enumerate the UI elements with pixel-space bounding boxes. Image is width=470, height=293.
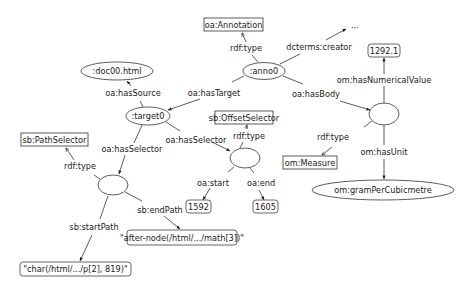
- svg-text:om:Measure: om:Measure: [285, 158, 336, 168]
- edge-path-end-path: sb:endPath: [125, 192, 183, 229]
- node-end-path-value: "after-node(/html/.../math[3])": [120, 230, 244, 245]
- node-path-selector: [98, 175, 128, 195]
- edge-body-has-numerical-value: om:hasNumericalValue: [337, 58, 431, 103]
- edge-label: sb:startPath: [69, 222, 118, 232]
- edge-label: om:hasUnit: [361, 147, 409, 157]
- svg-text:sb:PathSelector: sb:PathSelector: [23, 135, 87, 145]
- node-end-value: 1605: [253, 200, 278, 213]
- edge-label: oa:hasBody: [292, 89, 340, 99]
- edge-anno0-creator: dcterms:creator: [280, 29, 352, 64]
- node-sb-offset-selector: sb:OffsetSelector: [209, 111, 280, 124]
- node-oa-annotation: oa:Annotation: [204, 18, 263, 31]
- svg-text:"char(/html/.../p[2], 819)": "char(/html/.../p[2], 819)": [23, 264, 127, 274]
- svg-text:sb:OffsetSelector: sb:OffsetSelector: [209, 113, 280, 123]
- svg-text::target0: :target0: [132, 111, 165, 121]
- node-doc00-html: :doc00.html: [81, 62, 153, 80]
- svg-text::anno0: :anno0: [250, 66, 278, 76]
- node-target0: :target0: [126, 107, 170, 125]
- edge-label: rdf:type: [233, 131, 265, 141]
- svg-text:"after-node(/html/.../math[3]): "after-node(/html/.../math[3])": [120, 233, 244, 243]
- edge-anno0-has-target: oa:hasTarget: [168, 76, 244, 110]
- svg-text:1592: 1592: [188, 202, 209, 212]
- edge-body-has-unit: om:hasUnit: [361, 125, 409, 179]
- edge-target-has-selector-path: oa:hasSelector: [102, 125, 164, 174]
- svg-text:om:gramPerCubicmetre: om:gramPerCubicmetre: [334, 185, 432, 195]
- edge-label: rdf:type: [64, 161, 96, 171]
- node-body: [369, 103, 399, 125]
- node-offset-selector: [230, 148, 260, 168]
- svg-text:1292.1: 1292.1: [370, 46, 399, 56]
- svg-text::doc00.html: :doc00.html: [92, 66, 141, 76]
- edge-target-has-source: oa:hasSource: [105, 81, 160, 107]
- edge-label: dcterms:creator: [286, 42, 352, 52]
- node-creator-ellipsis: ...: [351, 20, 359, 30]
- node-om-measure: om:Measure: [283, 156, 337, 169]
- svg-text:...: ...: [351, 20, 359, 30]
- node-start-path-value: "char(/html/.../p[2], 819)": [20, 262, 131, 276]
- node-start-value: 1592: [186, 200, 211, 213]
- edge-path-rdf-type: rdf:type: [64, 148, 100, 179]
- edge-offset-end: oa:end: [247, 168, 275, 200]
- edge-label: oa:hasSelector: [102, 144, 164, 154]
- svg-text:1605: 1605: [255, 202, 276, 212]
- edge-anno0-rdf-type: rdf:type: [230, 33, 262, 62]
- edge-label: oa:hasTarget: [188, 88, 241, 98]
- edge-label: oa:hasSelector: [166, 135, 228, 145]
- edge-label: oa:end: [247, 178, 275, 188]
- edge-label: rdf:type: [317, 132, 349, 142]
- edge-label: oa:start: [197, 178, 230, 188]
- rdf-graph-diagram: rdf:type dcterms:creator oa:hasTarget oa…: [0, 0, 470, 293]
- edge-label: oa:hasSource: [105, 88, 160, 98]
- node-gram-per-cubicmetre: om:gramPerCubicmetre: [312, 180, 454, 200]
- edge-offset-start: oa:start: [197, 167, 234, 200]
- node-sb-path-selector: sb:PathSelector: [21, 133, 88, 146]
- edge-path-start-path: sb:startPath: [69, 196, 118, 261]
- node-numerical-value: 1292.1: [368, 44, 400, 57]
- edge-label: rdf:type: [230, 43, 262, 53]
- edge-target-has-selector-offset: oa:hasSelector: [166, 122, 230, 151]
- edge-label: om:hasNumericalValue: [337, 75, 431, 85]
- node-anno0: :anno0: [243, 63, 285, 80]
- edge-label: sb:endPath: [137, 205, 183, 215]
- edge-offset-rdf-type: rdf:type: [233, 125, 265, 148]
- svg-text:oa:Annotation: oa:Annotation: [205, 20, 263, 30]
